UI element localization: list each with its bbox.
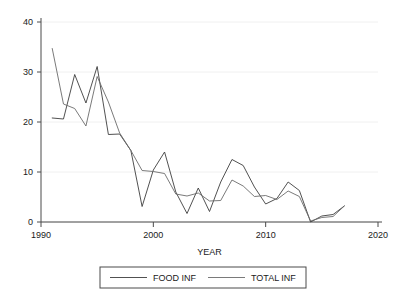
axes <box>41 18 382 222</box>
x-tick-label: 1990 <box>31 230 51 240</box>
x-axis-title: YEAR <box>197 247 222 257</box>
chart-legend: FOOD INFTOTAL INF <box>100 267 306 288</box>
x-tick-label: 2020 <box>368 230 388 240</box>
y-tick-label: 40 <box>23 17 33 27</box>
chart-container: 0102030401990200020102020 YEAR FOOD INFT… <box>0 0 405 306</box>
legend-label-total-inf: TOTAL INF <box>251 273 296 283</box>
data-series <box>52 49 344 223</box>
axis-tick-labels: 0102030401990200020102020 <box>23 17 388 240</box>
grid-lines <box>41 22 378 222</box>
x-tick-label: 2010 <box>256 230 276 240</box>
line-chart: 0102030401990200020102020 YEAR FOOD INFT… <box>0 0 405 306</box>
y-tick-label: 20 <box>23 117 33 127</box>
y-tick-label: 0 <box>28 217 33 227</box>
x-tick-label: 2000 <box>143 230 163 240</box>
axis-ticks <box>37 22 378 227</box>
series-line-total-inf <box>52 49 344 222</box>
y-tick-label: 10 <box>23 167 33 177</box>
legend-label-food-inf: FOOD INF <box>153 273 196 283</box>
y-tick-label: 30 <box>23 67 33 77</box>
